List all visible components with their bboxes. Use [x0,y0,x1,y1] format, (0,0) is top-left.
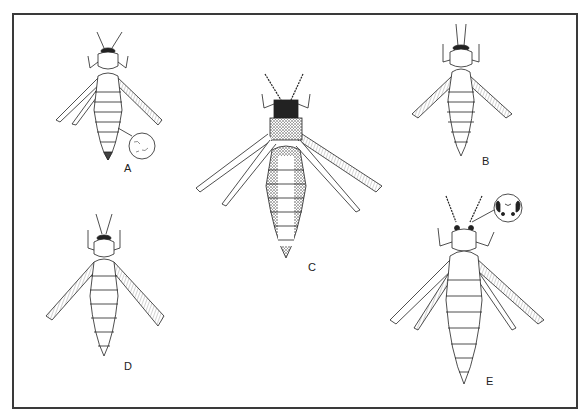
label-d: D [124,360,132,372]
specimen-d [46,214,164,356]
thrips-illustration: A B [0,0,588,418]
specimen-a [56,32,162,160]
label-a: A [124,162,132,174]
specimen-c [196,74,382,258]
label-e: E [486,375,493,387]
specimen-b [412,24,512,156]
label-b: B [482,155,489,167]
specimen-e [390,194,544,384]
label-c: C [308,261,316,273]
